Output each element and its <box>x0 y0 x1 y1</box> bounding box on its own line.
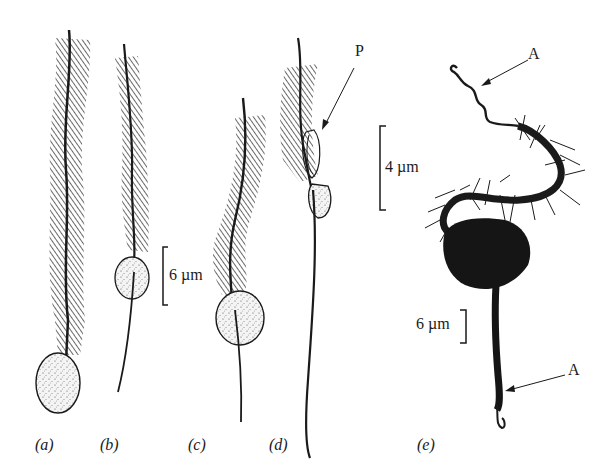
scale-bar-6um-bc <box>163 247 168 305</box>
cell-c <box>213 98 266 422</box>
cell-body-a <box>36 353 80 413</box>
panel-label-e: (e) <box>417 436 435 454</box>
scale-bar-6um-e <box>460 310 466 343</box>
arrow-A-bottom <box>509 375 565 390</box>
mastigonemes-a <box>49 38 90 355</box>
trailing-flagellum-d <box>306 190 315 458</box>
arrow-A-top <box>485 60 528 83</box>
panel-label-b: (b) <box>100 436 119 454</box>
cell-body-e <box>443 218 530 289</box>
cell-body-c <box>216 291 264 345</box>
arrow-P <box>325 68 354 125</box>
anterior-flagellum-e <box>451 66 518 126</box>
cell-d <box>280 38 354 458</box>
tinsel-flagellum-e <box>443 126 561 232</box>
cell-a <box>36 30 90 413</box>
posterior-flagellum-e <box>495 285 499 410</box>
panel-label-a: (a) <box>35 436 54 454</box>
annotation-A-top: A <box>528 45 540 63</box>
scale-label-4um: 4 µm <box>385 158 419 176</box>
mastigonemes-d <box>280 64 318 182</box>
flagellate-illustration <box>0 0 612 474</box>
annotation-P: P <box>355 42 364 60</box>
panel-label-c: (c) <box>188 436 206 454</box>
cell-b <box>115 44 149 392</box>
panel-label-d: (d) <box>269 436 288 454</box>
cell-e <box>425 60 585 428</box>
scale-label-6um-bc: 6 µm <box>169 266 203 284</box>
cell-body-d <box>309 184 331 218</box>
annotation-A-bottom: A <box>568 361 580 379</box>
scale-label-6um-e: 6 µm <box>416 315 450 333</box>
